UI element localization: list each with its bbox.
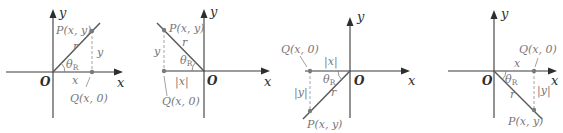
point-q-dot bbox=[532, 69, 536, 73]
theta-label: θR bbox=[323, 73, 336, 87]
point-q-dot bbox=[308, 69, 312, 73]
y-axis-arrow-icon bbox=[50, 9, 57, 18]
q-leader-line bbox=[535, 58, 538, 67]
panel-quadrant-3: y x O Q(x, 0) |x| θR |y| r P(x, y) bbox=[281, 9, 416, 131]
vertical-leg-label: |y| bbox=[537, 84, 551, 98]
reference-angle-figure: y x O P(x, y) r y θR x Q(x, 0) y x O P(x… bbox=[0, 0, 563, 133]
point-p-label: P(x, y) bbox=[55, 24, 91, 37]
reference-angle-arc bbox=[338, 71, 342, 80]
point-q-label: Q(x, 0) bbox=[162, 95, 200, 108]
reference-angle-arc bbox=[192, 62, 196, 71]
origin-label: O bbox=[207, 74, 218, 88]
y-axis-label: y bbox=[58, 5, 67, 20]
theta-label: θR bbox=[505, 73, 518, 87]
point-p-dot bbox=[532, 108, 536, 112]
point-q-label: Q(x, 0) bbox=[281, 43, 319, 56]
x-axis-label: x bbox=[117, 75, 125, 90]
panel-quadrant-2: y x O P(x, y) r y θR |x| Q(x, 0) bbox=[153, 4, 272, 118]
y-axis-arrow-icon bbox=[491, 10, 498, 19]
point-p-dot bbox=[308, 109, 312, 113]
theta-label: θR bbox=[66, 58, 79, 72]
q-leader-line bbox=[300, 56, 307, 67]
point-p-dot bbox=[162, 28, 166, 32]
origin-label: O bbox=[354, 74, 365, 88]
vertical-leg-label: y bbox=[153, 45, 161, 58]
horizontal-leg-label: |x| bbox=[324, 55, 338, 69]
point-q-label: Q(x, 0) bbox=[519, 43, 557, 56]
panel-quadrant-4: y x O Q(x, 0) x θR |y| r P(x, y) bbox=[448, 6, 559, 128]
q-leader-line bbox=[86, 77, 90, 87]
radius-label: r bbox=[510, 88, 516, 101]
point-p-label: P(x, y) bbox=[507, 115, 543, 128]
q-leader-line bbox=[164, 76, 167, 96]
theta-label: θR bbox=[180, 54, 193, 68]
point-q-dot bbox=[90, 70, 94, 74]
vertical-leg-label: |y| bbox=[294, 86, 308, 100]
point-q-dot bbox=[162, 69, 166, 73]
y-axis-arrow-icon bbox=[347, 17, 354, 26]
y-axis-arrow-icon bbox=[201, 9, 208, 18]
vertical-leg-label: y bbox=[96, 46, 104, 59]
point-p-label: P(x, y) bbox=[306, 118, 342, 131]
horizontal-leg-label: x bbox=[72, 74, 79, 87]
radius-label: r bbox=[182, 36, 188, 49]
radius-label: r bbox=[331, 86, 337, 99]
panel-quadrant-1: y x O P(x, y) r y θR x Q(x, 0) bbox=[6, 5, 125, 118]
horizontal-leg-label: |x| bbox=[175, 75, 189, 89]
point-p-label: P(x, y) bbox=[168, 22, 204, 35]
x-axis-label: x bbox=[264, 74, 272, 89]
origin-label: O bbox=[40, 75, 51, 89]
x-axis-label: x bbox=[551, 73, 559, 88]
x-axis-label: x bbox=[408, 73, 416, 88]
origin-label: O bbox=[482, 74, 493, 88]
horizontal-leg-label: x bbox=[514, 57, 521, 70]
reference-angle-arc bbox=[61, 63, 65, 72]
point-q-label: Q(x, 0) bbox=[70, 92, 108, 105]
radius-label: r bbox=[73, 40, 79, 53]
y-axis-label: y bbox=[500, 6, 509, 21]
y-axis-label: y bbox=[209, 4, 218, 19]
y-axis-label: y bbox=[356, 9, 365, 24]
